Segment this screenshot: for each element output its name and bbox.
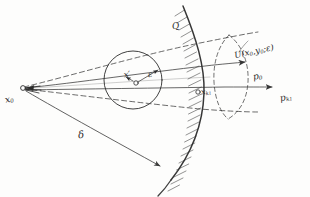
- point-xk1-dot: [196, 90, 200, 94]
- label-p0: p0: [252, 71, 263, 82]
- arc-hatching: [168, 10, 202, 191]
- label-x0: x0: [4, 94, 15, 106]
- dashed-upper-boundary-line: [24, 32, 258, 87]
- dashed-lower-boundary-line: [24, 89, 259, 112]
- label-Q: Q: [171, 21, 180, 31]
- boundary-arc-Q-tail: [158, 180, 171, 196]
- label-xk1: xk1: [200, 87, 211, 97]
- neighborhood-U-curve-left: [214, 35, 229, 119]
- label-x-prime: x′: [123, 71, 131, 80]
- label-delta: δ: [77, 130, 84, 141]
- inner-ray-faint: [25, 77, 210, 89]
- ray-to-pk1: [25, 87, 272, 90]
- diagram-canvas: [0, 0, 310, 197]
- epsilon-ball-center-dot: [134, 81, 138, 85]
- vertex-x0-dot: [21, 86, 26, 91]
- hand-drawn-diagram: x0 δ Q x′ ε U(x0,y0;ε) p0 pk1 xk1: [0, 0, 310, 197]
